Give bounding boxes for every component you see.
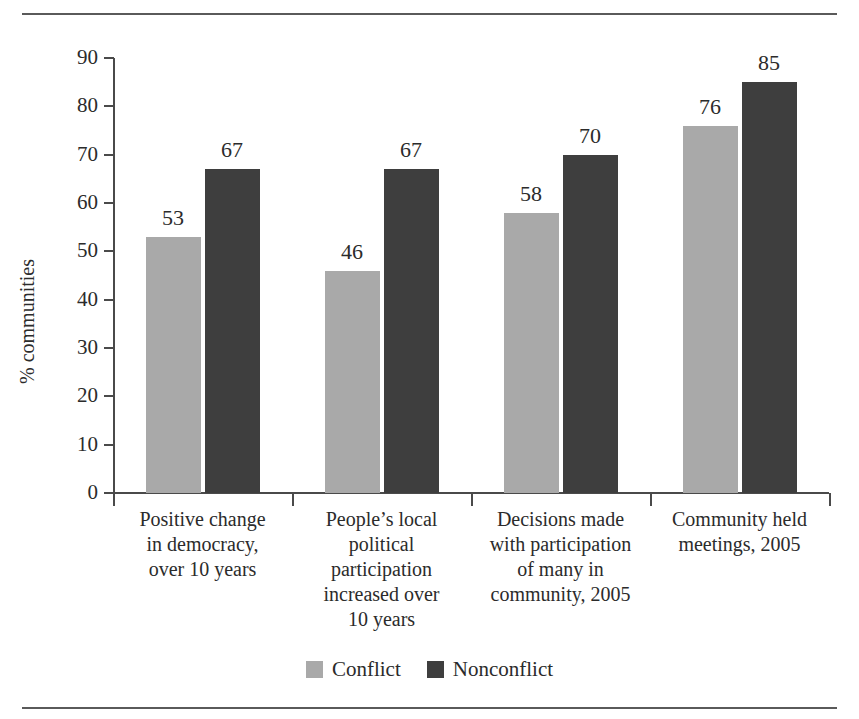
bar-value-label: 70 xyxy=(553,125,628,147)
bar-chart-plot: % communities 9080706050403020100 536746… xyxy=(0,0,859,719)
bar-value-label: 85 xyxy=(732,52,807,74)
category-label: Community held meetings, 2005 xyxy=(653,507,826,557)
bar-value-label: 58 xyxy=(494,183,569,205)
bar-nonconflict xyxy=(205,169,260,493)
bar-value-label: 76 xyxy=(673,96,748,118)
x-tick-mark xyxy=(113,493,115,506)
y-tick-mark xyxy=(104,105,114,107)
bar-nonconflict xyxy=(563,155,618,493)
legend-swatch-icon xyxy=(306,661,323,678)
bar-value-label: 67 xyxy=(374,139,449,161)
bar-nonconflict xyxy=(384,169,439,493)
y-tick-mark xyxy=(104,57,114,59)
y-tick-label: 20 xyxy=(32,385,98,406)
legend-label: Nonconflict xyxy=(453,659,553,680)
y-axis-line xyxy=(113,58,115,494)
y-tick-label: 90 xyxy=(32,47,98,68)
bar-conflict xyxy=(504,213,559,493)
y-tick-label: 50 xyxy=(32,240,98,261)
y-tick-mark xyxy=(104,395,114,397)
y-tick-label: 70 xyxy=(32,144,98,165)
legend-swatch-icon xyxy=(427,661,444,678)
y-tick-mark xyxy=(104,250,114,252)
y-tick-mark xyxy=(104,347,114,349)
y-tick-label: 80 xyxy=(32,95,98,116)
bar-value-label: 67 xyxy=(195,139,270,161)
bar-conflict xyxy=(683,126,738,493)
y-tick-mark xyxy=(104,154,114,156)
figure-page: % communities 9080706050403020100 536746… xyxy=(0,0,859,719)
chart-legend: ConflictNonconflict xyxy=(0,659,859,680)
y-tick-mark xyxy=(104,444,114,446)
y-tick-mark xyxy=(104,299,114,301)
category-label: Positive change in democracy, over 10 ye… xyxy=(116,507,289,582)
x-tick-mark xyxy=(471,493,473,506)
y-tick-label: 30 xyxy=(32,337,98,358)
bar-value-label: 46 xyxy=(315,241,390,263)
y-tick-label: 40 xyxy=(32,289,98,310)
category-label: Decisions made with participation of man… xyxy=(474,507,647,607)
bar-nonconflict xyxy=(742,82,797,493)
x-tick-mark xyxy=(829,493,831,506)
y-tick-label: 0 xyxy=(32,482,98,503)
legend-label: Conflict xyxy=(332,659,401,680)
category-label: People’s local political participation i… xyxy=(295,507,468,632)
y-tick-label: 60 xyxy=(32,192,98,213)
bar-conflict xyxy=(146,237,201,493)
y-tick-label: 10 xyxy=(32,434,98,455)
legend-item[interactable]: Conflict xyxy=(306,659,401,680)
x-tick-mark xyxy=(292,493,294,506)
legend-item[interactable]: Nonconflict xyxy=(427,659,553,680)
bar-conflict xyxy=(325,271,380,493)
x-tick-mark xyxy=(650,493,652,506)
bar-value-label: 53 xyxy=(136,207,211,229)
y-tick-mark xyxy=(104,202,114,204)
